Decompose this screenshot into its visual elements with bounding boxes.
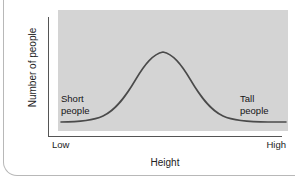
x-axis-tick-high: High [266,139,286,150]
x-axis-title: Height [48,157,282,168]
annotation-tall-people: Tall people [240,93,269,117]
y-axis-title: Number of people [27,13,38,123]
annotation-short-people: Short people [61,93,90,117]
x-axis-tick-low: Low [52,139,69,150]
figure-container: Number of people Height Low High Short p… [0,0,297,193]
